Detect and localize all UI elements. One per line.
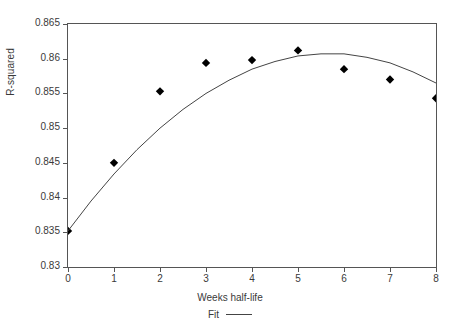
x-tick-label: 5 [288,273,308,284]
x-tick-label: 8 [426,273,446,284]
fit-line [68,54,436,231]
chart-container: R-squared 0.830.8350.840.8450.850.8550.8… [0,0,460,327]
y-tick-label: 0.85 [14,121,60,132]
data-point-marker [248,56,256,64]
data-point-marker [294,46,302,54]
data-point-marker [110,159,118,167]
y-tick-label: 0.855 [14,86,60,97]
x-tick-label: 1 [104,273,124,284]
x-tick-mark [298,267,299,272]
y-axis-title: R-squared [0,22,22,122]
x-tick-label: 0 [58,273,78,284]
y-tick-label: 0.835 [14,225,60,236]
data-point-marker [340,65,348,73]
x-tick-mark [344,267,345,272]
x-tick-label: 3 [196,273,216,284]
y-tick-label: 0.845 [14,156,60,167]
x-tick-label: 2 [150,273,170,284]
x-tick-mark [252,267,253,272]
legend-label-fit: Fit [208,309,219,320]
x-tick-mark [436,267,437,272]
x-tick-mark [390,267,391,272]
x-axis-title: Weeks half-life [0,292,460,303]
y-tick-label: 0.83 [14,260,60,271]
y-tick-label: 0.84 [14,191,60,202]
data-point-marker [156,87,164,95]
data-point-marker [202,59,210,67]
x-tick-mark [206,267,207,272]
data-point-marker [386,75,394,83]
plot-area [67,23,437,268]
x-tick-mark [114,267,115,272]
plot-svg [68,24,436,267]
x-tick-mark [160,267,161,272]
chart-legend: Fit [0,309,460,320]
x-tick-label: 6 [334,273,354,284]
y-tick-label: 0.86 [14,52,60,63]
x-tick-label: 7 [380,273,400,284]
legend-line-icon [226,314,252,315]
x-tick-mark [68,267,69,272]
y-tick-label: 0.865 [14,17,60,28]
x-tick-label: 4 [242,273,262,284]
data-point-marker [432,94,436,102]
